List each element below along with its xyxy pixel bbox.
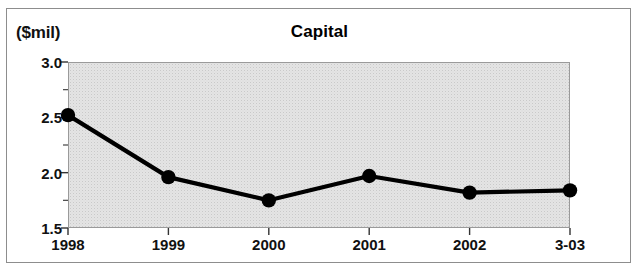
data-point-marker — [563, 183, 577, 197]
y-axis-tick-label: 2.5 — [16, 109, 62, 126]
x-axis-tick-label: 2002 — [453, 236, 486, 253]
data-point-marker — [462, 185, 476, 199]
data-point-marker — [161, 170, 175, 184]
chart-figure: ($mil) Capital 3.02.52.01.5 199819992000… — [0, 0, 639, 274]
x-axis-tick-label: 1998 — [51, 236, 84, 253]
y-axis-tick-label: 1.5 — [16, 220, 62, 237]
x-axis-labels: 199819992000200120023-03 — [68, 236, 570, 258]
data-point-marker — [362, 169, 376, 183]
y-axis-labels: 3.02.52.01.5 — [12, 62, 62, 228]
x-axis-tick-label: 1999 — [152, 236, 185, 253]
data-point-marker — [61, 108, 75, 122]
data-point-marker — [262, 193, 276, 207]
x-axis-tick-label: 2000 — [252, 236, 285, 253]
y-axis-tick-label: 2.0 — [16, 164, 62, 181]
data-line — [68, 115, 570, 200]
chart-title: Capital — [0, 22, 639, 42]
x-axis-tick-label: 2001 — [353, 236, 386, 253]
x-axis-tick-label: 3-03 — [555, 236, 585, 253]
plot-svg — [68, 62, 570, 228]
y-axis-tick-label: 3.0 — [16, 54, 62, 71]
